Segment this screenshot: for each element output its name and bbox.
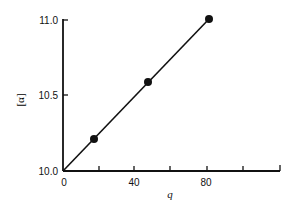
data-point-2 <box>144 78 152 86</box>
data-point-1 <box>90 135 98 143</box>
x-tick-label-80: 80 <box>200 177 212 188</box>
x-tick-label-40: 40 <box>128 177 140 188</box>
y-axis-label: [α] <box>14 93 26 106</box>
chart: 11.0 10.5 10.0 0 40 80 q [α] <box>0 0 294 207</box>
x-tick-label-0: 0 <box>61 177 67 188</box>
y-tick-label-10.5: 10.5 <box>39 90 59 101</box>
data-point-3 <box>205 15 213 23</box>
fit-line <box>63 19 209 171</box>
y-tick-label-10: 10.0 <box>39 166 59 177</box>
y-tick-label-11: 11.0 <box>39 15 58 26</box>
x-axis-label: q <box>167 188 173 200</box>
